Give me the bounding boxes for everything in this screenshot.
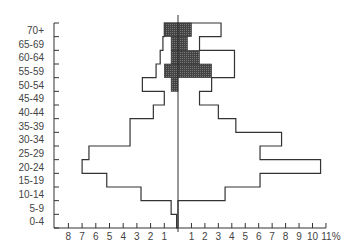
x-tick-label-right: 1 [189,231,195,242]
x-tick-label-right: 4 [229,231,235,242]
x-tick-label-right: 7 [269,231,275,242]
y-tick-label: 15-19 [18,175,44,186]
right-shaded-bar [178,64,212,78]
y-tick-label: 35-39 [18,121,44,132]
left-outline-bars [82,23,178,228]
x-tick-label-right: 2 [202,231,208,242]
y-tick-label: 40-44 [18,107,44,118]
y-tick-label: 70+ [27,25,44,36]
y-tick-label: 60-64 [18,52,44,63]
y-tick-label: 50-54 [18,80,44,91]
right-shaded-bar [178,37,187,51]
x-axis-labels: 876543211234567891011% [66,231,341,242]
x-tick-label-left: 3 [134,231,140,242]
y-tick-label: 25-29 [18,148,44,159]
right-shaded-bar [178,50,200,64]
left-shaded-bar [164,64,178,78]
population-pyramid-chart: 0-45-910-1415-1920-2425-2930-3435-3940-4… [0,0,358,245]
right-shaded-bar [178,23,191,37]
x-tick-label-left: 8 [66,231,72,242]
left-shaded-bar [164,23,178,37]
axes [54,15,326,232]
y-tick-label: 55-59 [18,66,44,77]
x-tick-label-left: 4 [120,231,126,242]
y-tick-label: 30-34 [18,134,44,145]
y-tick-label: 0-4 [30,216,45,227]
y-tick-label: 5-9 [30,203,45,214]
x-tick-label-right: 3 [216,231,222,242]
x-tick-label-right: 10 [307,231,319,242]
y-axis-labels: 0-45-910-1415-1920-2425-2930-3435-3940-4… [18,25,44,227]
x-tick-label-left: 7 [79,231,85,242]
x-tick-label-right: 9 [296,231,302,242]
y-tick-label: 10-14 [18,189,44,200]
x-tick-label-left: 2 [148,231,154,242]
x-tick-label-right: 8 [283,231,289,242]
x-tick-label-left: 5 [107,231,113,242]
outline-bars [82,23,320,228]
left-shaded-bar [171,78,178,92]
x-tick-label-right: 6 [256,231,262,242]
x-tick-label-right: 5 [242,231,248,242]
y-tick-label: 20-24 [18,162,44,173]
x-tick-label-right: 11% [321,231,340,242]
left-shaded-bar [171,50,178,64]
y-tick-label: 65-69 [18,39,44,50]
x-tick-label-left: 6 [93,231,99,242]
left-shaded-bar [171,37,178,51]
shaded-bars [164,23,211,91]
x-tick-label-left: 1 [162,231,168,242]
y-tick-label: 45-49 [18,93,44,104]
